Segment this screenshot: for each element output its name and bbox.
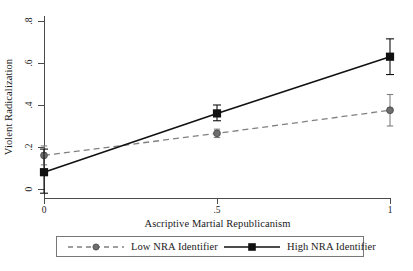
legend-label-high-nra: High NRA Identifier <box>287 241 376 252</box>
legend-key-high-nra <box>223 240 281 254</box>
data-point-1 <box>214 130 221 137</box>
legend-entry-low-nra[interactable]: Low NRA Identifier <box>67 237 218 256</box>
series-high-nra <box>40 39 394 193</box>
legend-entry-high-nra[interactable]: High NRA Identifier <box>223 237 376 256</box>
data-point-2 <box>387 107 394 114</box>
legend-box: Low NRA Identifier High NRA Identifier <box>56 236 364 257</box>
legend-key-low-nra <box>67 240 125 254</box>
data-point-2 <box>386 53 394 61</box>
figure-caption <box>56 261 364 270</box>
legend-marker-square-icon <box>223 240 281 254</box>
legend-marker-circle-icon <box>67 240 125 254</box>
data-point-1 <box>213 109 221 117</box>
figure-container: .8 .6 .4 .2 0 0 .5 1 Ascriptive Martial … <box>0 0 413 271</box>
series-plot <box>0 0 413 271</box>
data-point-0 <box>40 168 48 176</box>
legend-label-low-nra: Low NRA Identifier <box>131 241 218 252</box>
